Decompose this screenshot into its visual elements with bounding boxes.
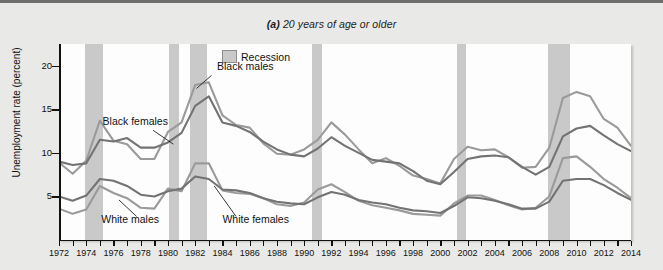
x-tick-label: 2014	[614, 248, 648, 258]
panel-label: (a)	[267, 18, 280, 30]
x-tick	[277, 241, 278, 246]
x-tick	[617, 241, 618, 246]
x-tick	[372, 241, 373, 246]
x-tick	[59, 241, 60, 246]
x-tick	[508, 241, 509, 246]
figure-title: (a) 20 years of age or older	[0, 18, 663, 30]
x-tick	[100, 241, 101, 246]
y-tick	[52, 153, 60, 154]
x-tick	[454, 241, 455, 246]
figure-panel-a: (a) 20 years of age or older 5101520 Une…	[0, 3, 663, 270]
x-tick	[522, 241, 523, 246]
x-tick	[495, 241, 496, 246]
x-tick	[168, 241, 169, 246]
x-tick	[222, 241, 223, 246]
x-tick	[291, 241, 292, 246]
plot-area	[59, 44, 631, 240]
x-tick	[86, 241, 87, 246]
y-tick	[52, 66, 60, 67]
panel-title-text: 20 years of age or older	[283, 18, 396, 30]
y-tick	[52, 196, 60, 197]
annotation-black-males: Black males	[217, 60, 274, 72]
x-tick	[127, 241, 128, 246]
x-tick	[399, 241, 400, 246]
x-tick	[250, 241, 251, 246]
x-tick	[209, 241, 210, 246]
x-tick	[318, 241, 319, 246]
x-tick	[331, 241, 332, 246]
x-tick	[386, 241, 387, 246]
series-line-white-males	[59, 156, 631, 215]
x-tick	[236, 241, 237, 246]
y-axis-title: Unemployment rate (percent)	[11, 23, 22, 203]
annotation-black-females: Black females	[103, 115, 168, 127]
x-tick	[113, 241, 114, 246]
x-tick	[413, 241, 414, 246]
x-tick	[427, 241, 428, 246]
x-tick	[563, 241, 564, 246]
x-tick	[481, 241, 482, 246]
x-tick	[604, 241, 605, 246]
x-tick	[154, 241, 155, 246]
x-tick	[304, 241, 305, 246]
annotation-white-males: White males	[101, 213, 159, 225]
y-tick-label: 5	[32, 190, 52, 201]
y-axis-labels: 5101520	[26, 3, 52, 270]
x-tick	[440, 241, 441, 246]
x-tick	[359, 241, 360, 246]
y-tick-label: 15	[32, 103, 52, 114]
y-axis-line	[59, 44, 61, 240]
y-tick	[52, 109, 60, 110]
x-tick	[590, 241, 591, 246]
x-tick	[536, 241, 537, 246]
x-tick	[141, 241, 142, 246]
x-tick	[263, 241, 264, 246]
series-line-black-females	[59, 96, 631, 184]
x-tick	[577, 241, 578, 246]
x-tick	[549, 241, 550, 246]
x-tick	[73, 241, 74, 246]
y-tick-label: 10	[32, 147, 52, 158]
annotation-white-females: White females	[222, 213, 289, 225]
x-tick	[182, 241, 183, 246]
x-tick	[195, 241, 196, 246]
x-tick	[631, 241, 632, 246]
x-tick	[468, 241, 469, 246]
x-tick	[345, 241, 346, 246]
y-tick-label: 20	[32, 60, 52, 71]
line-chart-svg	[59, 44, 631, 240]
